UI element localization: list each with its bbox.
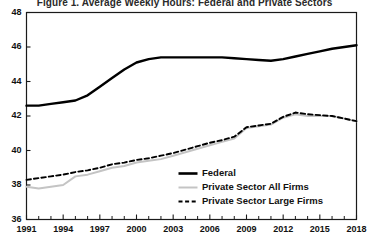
y-tick-48: 48 (0, 7, 22, 17)
x-tick-2012: 2012 (263, 224, 303, 234)
y-tick-36: 36 (0, 214, 22, 224)
y-tick-38: 38 (0, 179, 22, 189)
x-tick-2009: 2009 (227, 224, 267, 234)
x-tick-1991: 1991 (7, 224, 47, 234)
chart-legend: FederalPrivate Sector All FirmsPrivate S… (178, 166, 323, 208)
legend-label: Private Sector Large Firms (202, 196, 323, 206)
legend-swatch-icon (178, 196, 198, 206)
y-tick-40: 40 (0, 145, 22, 155)
legend-swatch-icon (178, 182, 198, 192)
x-tick-2015: 2015 (300, 224, 340, 234)
legend-item-private-sector-all-firms[interactable]: Private Sector All Firms (178, 180, 323, 194)
y-tick-44: 44 (0, 76, 22, 86)
chart-container: Figure 1. Average Weekly Hours: Federal … (0, 0, 369, 239)
legend-item-federal[interactable]: Federal (178, 166, 323, 180)
legend-label: Federal (202, 168, 236, 178)
legend-swatch-icon (178, 168, 198, 178)
y-tick-46: 46 (0, 41, 22, 51)
x-tick-2000: 2000 (117, 224, 157, 234)
legend-item-private-sector-large-firms[interactable]: Private Sector Large Firms (178, 194, 323, 208)
x-tick-2003: 2003 (153, 224, 193, 234)
x-tick-1997: 1997 (80, 224, 120, 234)
legend-label: Private Sector All Firms (202, 182, 309, 192)
x-tick-2006: 2006 (190, 224, 230, 234)
y-tick-42: 42 (0, 110, 22, 120)
x-tick-1994: 1994 (43, 224, 83, 234)
series-line-federal (27, 45, 357, 105)
x-tick-2018: 2018 (337, 224, 369, 234)
